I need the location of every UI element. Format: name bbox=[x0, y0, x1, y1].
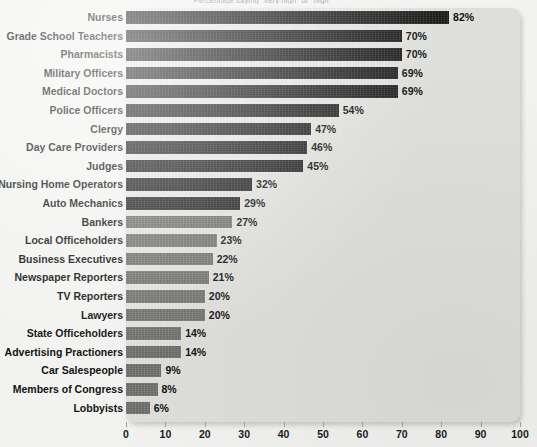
bar bbox=[126, 402, 150, 415]
bar-texture bbox=[126, 383, 158, 396]
bar-row: Newspaper Reporters21% bbox=[0, 270, 537, 289]
bar-row: Business Executives22% bbox=[0, 252, 537, 271]
bar-value-label: 70% bbox=[406, 29, 427, 43]
bar-value-label: 45% bbox=[307, 159, 328, 173]
bar bbox=[126, 234, 217, 247]
axis-tick-label: 10 bbox=[160, 427, 172, 441]
category-label: State Officeholders bbox=[0, 326, 123, 340]
bar bbox=[126, 141, 307, 154]
category-label: Police Officers bbox=[0, 103, 123, 117]
category-label: Car Salespeople bbox=[0, 363, 123, 377]
category-label: Members of Congress bbox=[0, 382, 123, 396]
bar-chart: Percentage saying "very high" or "high" … bbox=[0, 0, 537, 447]
bar-value-label: 8% bbox=[162, 382, 177, 396]
bar bbox=[126, 216, 232, 229]
bar-row: Nurses82% bbox=[0, 10, 537, 29]
bar-row: Judges45% bbox=[0, 159, 537, 178]
bar-row: TV Reporters20% bbox=[0, 289, 537, 308]
bar-texture bbox=[126, 11, 449, 24]
bar-value-label: 20% bbox=[209, 289, 230, 303]
bar-value-label: 69% bbox=[402, 84, 423, 98]
x-axis: 0102030405060708090100 bbox=[126, 422, 520, 447]
bar-value-label: 82% bbox=[453, 10, 474, 24]
bar-row: Lobbyists6% bbox=[0, 401, 537, 420]
category-label: Pharmacists bbox=[0, 47, 123, 61]
bar-texture bbox=[126, 123, 311, 136]
bar-value-label: 14% bbox=[185, 326, 206, 340]
bar bbox=[126, 383, 158, 396]
axis-tick-label: 80 bbox=[435, 427, 447, 441]
bar bbox=[126, 178, 252, 191]
category-label: Nursing Home Operators bbox=[0, 177, 123, 191]
bar-row: Car Salespeople9% bbox=[0, 363, 537, 382]
bar bbox=[126, 327, 181, 340]
bar-row: Day Care Providers46% bbox=[0, 140, 537, 159]
bar-texture bbox=[126, 253, 213, 266]
category-label: Grade School Teachers bbox=[0, 29, 123, 43]
bar-row: Local Officeholders23% bbox=[0, 233, 537, 252]
bar bbox=[126, 123, 311, 136]
bar-value-label: 27% bbox=[236, 215, 257, 229]
axis-tick-label: 50 bbox=[317, 427, 329, 441]
bar-row: Lawyers20% bbox=[0, 308, 537, 327]
axis-tick-label: 40 bbox=[278, 427, 290, 441]
bar-row: Medical Doctors69% bbox=[0, 84, 537, 103]
chart-subtitle: Percentage saying "very high" or "high" bbox=[0, 0, 525, 4]
axis-tick-label: 30 bbox=[238, 427, 250, 441]
bar-value-label: 6% bbox=[154, 401, 169, 415]
axis-tick-label: 60 bbox=[357, 427, 369, 441]
bar bbox=[126, 67, 398, 80]
bar bbox=[126, 11, 449, 24]
bar-texture bbox=[126, 346, 181, 359]
category-label: TV Reporters bbox=[0, 289, 123, 303]
bar-row: Auto Mechanics29% bbox=[0, 196, 537, 215]
bar-texture bbox=[126, 160, 303, 173]
bar bbox=[126, 30, 402, 43]
bar-texture bbox=[126, 271, 209, 284]
bar bbox=[126, 85, 398, 98]
axis-tick-label: 70 bbox=[396, 427, 408, 441]
bar-texture bbox=[126, 364, 161, 377]
category-label: Advertising Practioners bbox=[0, 345, 123, 359]
category-label: Military Officers bbox=[0, 66, 123, 80]
axis-tick-label: 0 bbox=[123, 427, 129, 441]
bar-row: Advertising Practioners14% bbox=[0, 345, 537, 364]
bar bbox=[126, 309, 205, 322]
bar-texture bbox=[126, 30, 402, 43]
bar-row: State Officeholders14% bbox=[0, 326, 537, 345]
bar-row: Military Officers69% bbox=[0, 66, 537, 85]
category-label: Lobbyists bbox=[0, 401, 123, 415]
bar bbox=[126, 197, 240, 210]
bar-texture bbox=[126, 402, 150, 415]
category-label: Nurses bbox=[0, 10, 123, 24]
bar bbox=[126, 104, 339, 117]
bar-row: Members of Congress8% bbox=[0, 382, 537, 401]
bar bbox=[126, 364, 161, 377]
bar-texture bbox=[126, 104, 339, 117]
bar-texture bbox=[126, 197, 240, 210]
bar-value-label: 22% bbox=[217, 252, 238, 266]
bar-value-label: 46% bbox=[311, 140, 332, 154]
category-label: Local Officeholders bbox=[0, 233, 123, 247]
bar-row: Grade School Teachers70% bbox=[0, 29, 537, 48]
bar-value-label: 14% bbox=[185, 345, 206, 359]
axis-tick-label: 90 bbox=[475, 427, 487, 441]
bar-value-label: 69% bbox=[402, 66, 423, 80]
category-label: Bankers bbox=[0, 215, 123, 229]
bar-value-label: 29% bbox=[244, 196, 265, 210]
category-label: Clergy bbox=[0, 122, 123, 136]
bar-row: Police Officers54% bbox=[0, 103, 537, 122]
bar-texture bbox=[126, 234, 217, 247]
bar bbox=[126, 346, 181, 359]
bar-row: Bankers27% bbox=[0, 215, 537, 234]
category-label: Lawyers bbox=[0, 308, 123, 322]
bar-value-label: 20% bbox=[209, 308, 230, 322]
bar bbox=[126, 253, 213, 266]
category-label: Newspaper Reporters bbox=[0, 270, 123, 284]
axis-tick-label: 100 bbox=[511, 427, 529, 441]
bar-value-label: 23% bbox=[221, 233, 242, 247]
bar bbox=[126, 271, 209, 284]
bar-texture bbox=[126, 290, 205, 303]
bar-texture bbox=[126, 178, 252, 191]
bar-texture bbox=[126, 48, 402, 61]
